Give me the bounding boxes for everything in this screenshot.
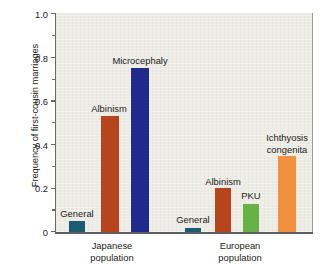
y-tick-minor-0.5 (52, 122, 55, 123)
group-label-japanese-line1: Japanese (90, 240, 133, 252)
y-tick-minor-0.9 (52, 35, 55, 36)
x-axis-line (55, 232, 313, 234)
y-tick-major-0.6 (51, 100, 55, 101)
bar-annotation-ichthyosis-line1: Ichthyosis (266, 132, 308, 144)
y-tick-minor-0.1 (52, 209, 55, 210)
y-axis-tick-labels: 1.0 0.8 0.6 0.4 0.2 0 (20, 0, 48, 274)
bar-annotation-ichthyosis-congenita-european: Ichthyosis congenita (266, 132, 308, 155)
group-label-european-line2: population (218, 252, 261, 264)
bar-annotation-microcephaly-japanese: Microcephaly (112, 55, 167, 67)
bar-microcephaly-japanese[interactable] (131, 68, 149, 232)
bar-annotation-pku-european: PKU (241, 190, 260, 202)
y-tick-major-0.8 (51, 57, 55, 58)
y-tick-major-0.2 (51, 188, 55, 189)
y-tick-label-0.6: 0.6 (22, 96, 48, 107)
bar-annotation-general-european: General (176, 214, 209, 226)
bar-general-japanese[interactable] (69, 221, 85, 232)
y-tick-label-0.8: 0.8 (22, 52, 48, 63)
y-tick-label-0.4: 0.4 (22, 139, 48, 150)
group-label-european-line1: European (218, 240, 261, 252)
y-tick-minor-0.7 (52, 79, 55, 80)
y-tick-label-1.0: 1.0 (22, 9, 48, 20)
bar-annotation-albinism-japanese: Albinism (91, 103, 126, 115)
bar-annotation-albinism-european: Albinism (205, 176, 240, 188)
group-label-japanese-line2: population (90, 252, 133, 264)
group-label-japanese-population: Japanese population (90, 240, 133, 263)
y-tick-major-0.4 (51, 144, 55, 145)
bar-albinism-japanese[interactable] (101, 116, 119, 232)
bar-pku-european[interactable] (243, 204, 259, 232)
bar-albinism-european[interactable] (215, 188, 231, 232)
bar-annotation-general-japanese: General (60, 208, 93, 220)
bar-annotation-ichthyosis-line2: congenita (266, 144, 308, 156)
bars-layer (56, 13, 312, 232)
chart-figure: Frequency of first-cousin marriages 1.0 … (0, 0, 325, 274)
y-tick-major-1.0 (51, 13, 55, 14)
group-label-european-population: European population (218, 240, 261, 263)
y-tick-label-0.2: 0.2 (22, 183, 48, 194)
y-tick-minor-0.3 (52, 166, 55, 167)
y-tick-label-0: 0 (22, 227, 48, 238)
bar-ichthyosis-congenita-european[interactable] (278, 156, 296, 233)
